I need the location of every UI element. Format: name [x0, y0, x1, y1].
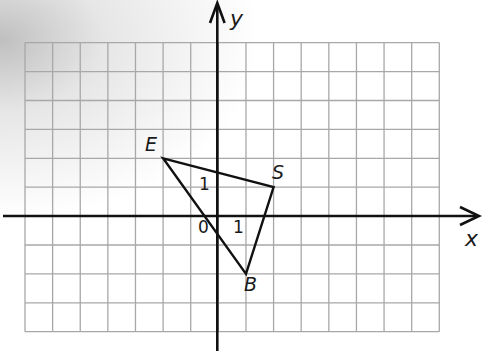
- y-axis: [210, 3, 225, 351]
- coordinate-plane: [0, 0, 486, 354]
- y-axis-label: y: [230, 8, 243, 30]
- grid: [25, 43, 439, 332]
- y-unit-label: 1: [199, 176, 210, 193]
- vertex-label-B: B: [244, 275, 257, 294]
- x-unit-label: 1: [233, 219, 244, 236]
- vertex-label-S: S: [272, 163, 284, 182]
- x-axis-label: x: [465, 228, 478, 250]
- vertex-label-E: E: [145, 135, 157, 154]
- origin-label: 0: [198, 219, 209, 236]
